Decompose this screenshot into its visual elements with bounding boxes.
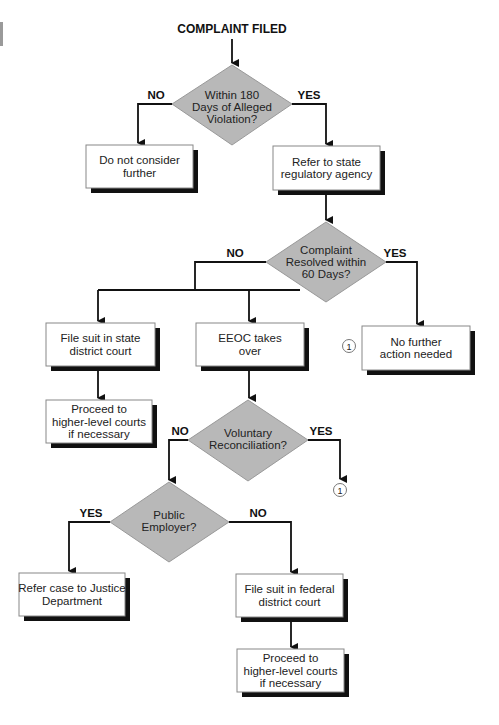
svg-text:1: 1	[337, 486, 342, 496]
box-refer-state-agency: Refer to stateregulatory agency	[273, 146, 385, 195]
arrow-public-yes	[69, 522, 110, 571]
label-yes: YES	[309, 425, 332, 437]
arrow-public-no	[229, 522, 291, 572]
label-no: NO	[147, 89, 164, 101]
box-federal-district-court: File suit in federaldistrict court	[236, 574, 348, 622]
label-no: NO	[226, 247, 243, 259]
connector-1-b: 1	[334, 484, 347, 497]
connector-1-a: 1	[343, 340, 356, 353]
box-eeoc-takes-over: EEOC takesover	[196, 323, 309, 371]
decision-within-180: Within 180Days of AllegedViolation? NO Y…	[147, 65, 320, 145]
label-no: NO	[171, 425, 188, 437]
arrow-60-no-trunk	[195, 262, 266, 290]
label-no: NO	[249, 507, 266, 519]
box-do-not-consider: Do not considerfurther	[86, 145, 198, 193]
box-higher-courts-state: Proceed tohigher-level courtsif necessar…	[46, 400, 157, 448]
arrow-60-yes	[386, 262, 417, 324]
box-state-district-court: File suit in statedistrict court	[46, 323, 160, 371]
label-yes: YES	[383, 247, 406, 259]
flowchart: COMPLAINT FILED Within 180Days of Allege…	[0, 0, 499, 725]
arrow-180-yes	[292, 104, 326, 144]
arrow-vol-yes	[308, 440, 340, 479]
box-label: No furtheraction needed	[380, 336, 452, 361]
arrow-180-no	[138, 104, 172, 143]
label-yes: YES	[297, 89, 320, 101]
label-yes: YES	[79, 507, 102, 519]
box-refer-justice-dept: Refer case to JusticeDepartment	[18, 573, 130, 621]
box-higher-courts-federal: Proceed tohigher-level courtsif necessar…	[237, 649, 349, 697]
flow-title: COMPLAINT FILED	[177, 22, 287, 36]
svg-text:1: 1	[346, 342, 351, 352]
box-label: File suit in statedistrict court	[61, 332, 141, 357]
arrow-vol-no	[169, 440, 188, 480]
box-no-further-action: No furtheraction needed	[362, 326, 475, 375]
box-label: Refer to stateregulatory agency	[281, 156, 373, 181]
